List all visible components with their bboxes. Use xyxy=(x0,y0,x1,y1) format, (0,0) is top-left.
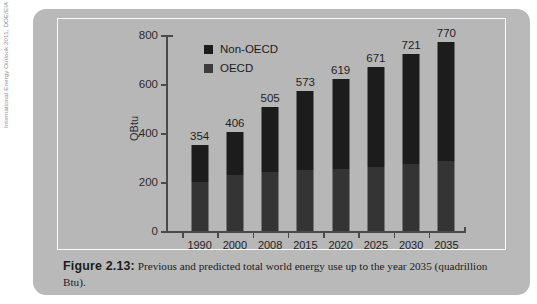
bar[interactable]: 721 xyxy=(403,54,420,231)
bar-segment-oecd xyxy=(403,164,420,232)
bar-segment-non-oecd xyxy=(403,54,420,163)
legend-item-non-oecd: Non-OECD xyxy=(204,43,278,55)
bar-value-label: 505 xyxy=(261,92,280,104)
x-tick xyxy=(253,233,255,238)
bar-segment-oecd xyxy=(367,167,384,231)
bar-segment-non-oecd xyxy=(262,107,279,171)
y-tick xyxy=(161,84,166,86)
legend-label-non-oecd: Non-OECD xyxy=(220,43,278,55)
bar-value-label: 619 xyxy=(331,64,350,76)
bar-value-label: 770 xyxy=(437,27,456,39)
x-tick-label: 2035 xyxy=(434,239,458,251)
bar-value-label: 573 xyxy=(296,76,315,88)
y-tick-label: 200 xyxy=(139,176,158,188)
y-tick xyxy=(161,133,166,135)
bar[interactable]: 770 xyxy=(438,42,455,231)
x-tick xyxy=(182,233,184,238)
x-tick-label: 2030 xyxy=(399,239,423,251)
y-tick-label: 0 xyxy=(152,225,158,237)
bar-value-label: 406 xyxy=(225,117,244,129)
source-credit: International Energy Outlook 2011, DOE/E… xyxy=(2,0,9,128)
bar-segment-oecd xyxy=(332,169,349,231)
bar[interactable]: 671 xyxy=(367,67,384,232)
bar-segment-oecd xyxy=(191,182,208,231)
plot-area: 0200400600800 19902000200820152020202520… xyxy=(166,35,466,233)
bar-segment-non-oecd xyxy=(297,91,314,170)
x-axis-line xyxy=(166,231,466,233)
legend-swatch-non-oecd-icon xyxy=(204,45,213,54)
bar-segment-non-oecd xyxy=(226,132,243,175)
bar-segment-non-oecd xyxy=(367,67,384,168)
bar[interactable]: 406 xyxy=(226,132,243,232)
bar-segment-oecd xyxy=(297,170,314,231)
x-tick xyxy=(394,233,396,238)
y-tick xyxy=(161,231,166,233)
legend-swatch-oecd-icon xyxy=(204,64,213,73)
x-tick xyxy=(288,233,290,238)
bar-segment-non-oecd xyxy=(332,79,349,169)
bar-value-label: 721 xyxy=(402,39,421,51)
figure-caption: Figure 2.13: Previous and predicted tota… xyxy=(63,258,509,290)
figure-panel: QBtu 0200400600800 199020002008201520202… xyxy=(33,9,530,295)
x-tick xyxy=(429,233,431,238)
y-axis-top-cap xyxy=(166,35,173,37)
x-tick-label: 2008 xyxy=(258,239,282,251)
bar-segment-oecd xyxy=(262,172,279,232)
y-axis-line xyxy=(166,35,168,233)
x-tick-label: 1990 xyxy=(187,239,211,251)
bar[interactable]: 573 xyxy=(297,91,314,232)
bar-value-label: 354 xyxy=(190,130,209,142)
bar-segment-non-oecd xyxy=(438,42,455,161)
bar[interactable]: 354 xyxy=(191,145,208,232)
bar[interactable]: 619 xyxy=(332,79,349,231)
chart-legend: Non-OECD OECD xyxy=(204,43,278,81)
bar-segment-non-oecd xyxy=(191,145,208,183)
x-axis-end-cap xyxy=(464,227,466,233)
y-tick xyxy=(161,35,166,37)
legend-label-oecd: OECD xyxy=(220,62,253,74)
y-tick-label: 600 xyxy=(139,78,158,90)
x-tick xyxy=(323,233,325,238)
x-tick-label: 2020 xyxy=(328,239,352,251)
bar-value-label: 671 xyxy=(366,52,385,64)
bar[interactable]: 505 xyxy=(262,107,279,231)
x-tick xyxy=(217,233,219,238)
y-tick xyxy=(161,182,166,184)
y-tick-label: 400 xyxy=(139,127,158,139)
chart-card: QBtu 0200400600800 199020002008201520202… xyxy=(57,18,506,250)
figure-caption-label: Figure 2.13: xyxy=(63,259,135,273)
x-tick-label: 2000 xyxy=(223,239,247,251)
legend-item-oecd: OECD xyxy=(204,62,278,74)
x-tick xyxy=(358,233,360,238)
x-tick-label: 2025 xyxy=(364,239,388,251)
bar-segment-oecd xyxy=(226,175,243,231)
x-tick-label: 2015 xyxy=(293,239,317,251)
y-tick-label: 800 xyxy=(139,29,158,41)
bar-segment-oecd xyxy=(438,161,455,231)
